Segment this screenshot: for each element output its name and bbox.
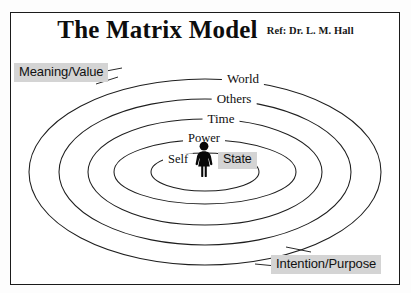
highlight-label-state: State [218,152,257,169]
highlight-label-intention-purpose: Intention/Purpose [271,255,381,274]
ring-label-time: Time [203,112,240,126]
ring-label-world: World [222,72,264,86]
ring-label-others: Others [212,92,257,106]
matrix-model-diagram-page: The Matrix ModelRef: Dr. L. M. Hall Worl… [0,0,411,293]
highlight-label-meaning-value: Meaning/Value [14,63,108,82]
ring-label-self: Self [163,153,193,166]
person-figure-icon [192,141,216,179]
